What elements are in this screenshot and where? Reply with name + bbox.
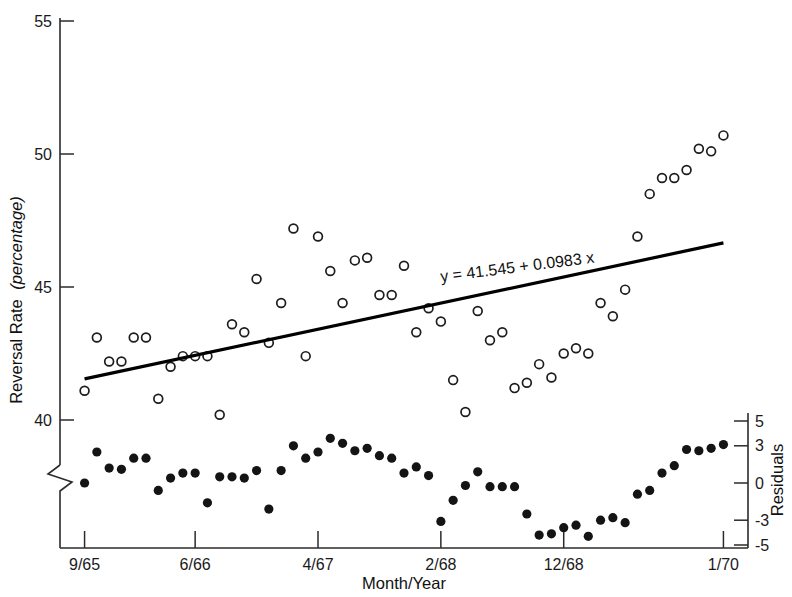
data-point-reversal-rate bbox=[510, 384, 519, 393]
data-point-reversal-rate bbox=[289, 224, 298, 233]
figure-container: 55504540 9/656/664/672/6812/681/70 530-3… bbox=[0, 0, 792, 597]
data-point-residual bbox=[80, 478, 89, 487]
data-point-reversal-rate bbox=[350, 256, 359, 265]
data-point-reversal-rate bbox=[535, 360, 544, 369]
data-point-residual bbox=[719, 440, 728, 449]
data-point-residual bbox=[350, 446, 359, 455]
data-point-reversal-rate bbox=[547, 373, 556, 382]
data-point-residual bbox=[461, 481, 470, 490]
data-point-reversal-rate bbox=[436, 317, 445, 326]
x-axis-tick-labels: 9/656/664/672/6812/681/70 bbox=[69, 556, 739, 573]
data-point-reversal-rate bbox=[449, 376, 458, 385]
x-tick-label: 9/65 bbox=[69, 556, 100, 573]
data-point-reversal-rate bbox=[707, 147, 716, 156]
series-residual-markers bbox=[80, 434, 728, 541]
data-point-reversal-rate bbox=[277, 299, 286, 308]
data-point-residual bbox=[326, 434, 335, 443]
data-point-residual bbox=[645, 486, 654, 495]
data-point-residual bbox=[375, 451, 384, 460]
data-point-residual bbox=[178, 468, 187, 477]
data-point-residual bbox=[227, 472, 236, 481]
bottom-axis-group: 9/656/664/672/6812/681/70 bbox=[60, 531, 748, 573]
data-point-residual bbox=[510, 482, 519, 491]
data-point-reversal-rate bbox=[584, 349, 593, 358]
right-axis-ticks bbox=[734, 421, 748, 545]
right-axis-title: Residuals bbox=[768, 444, 786, 516]
data-point-residual bbox=[498, 482, 507, 491]
left-tick-label: 55 bbox=[34, 13, 52, 30]
data-point-reversal-rate bbox=[719, 131, 728, 140]
data-point-residual bbox=[473, 467, 482, 476]
y-axis-title-italic: (percentage) bbox=[7, 196, 25, 290]
data-point-residual bbox=[313, 447, 322, 456]
data-point-residual bbox=[436, 517, 445, 526]
data-point-residual bbox=[621, 518, 630, 527]
right-axis-group: 530-3-5 bbox=[734, 413, 769, 554]
data-point-reversal-rate bbox=[461, 408, 470, 417]
data-point-reversal-rate bbox=[228, 320, 237, 329]
data-point-reversal-rate bbox=[400, 261, 409, 270]
right-tick-label: 0 bbox=[755, 475, 764, 492]
data-point-reversal-rate bbox=[670, 174, 679, 183]
data-point-residual bbox=[682, 445, 691, 454]
data-point-reversal-rate bbox=[596, 299, 605, 308]
data-point-reversal-rate bbox=[375, 291, 384, 300]
x-tick-label: 4/67 bbox=[302, 556, 333, 573]
data-point-reversal-rate bbox=[117, 357, 126, 366]
left-axis-ticks bbox=[60, 21, 74, 420]
x-axis-ticks bbox=[85, 531, 724, 548]
data-point-reversal-rate bbox=[572, 344, 581, 353]
data-point-residual bbox=[412, 462, 421, 471]
data-point-reversal-rate bbox=[486, 336, 495, 345]
left-tick-label: 50 bbox=[34, 146, 52, 163]
data-point-residual bbox=[547, 529, 556, 538]
data-point-reversal-rate bbox=[301, 352, 310, 361]
data-point-residual bbox=[338, 439, 347, 448]
x-tick-label: 12/68 bbox=[544, 556, 584, 573]
data-point-reversal-rate bbox=[142, 333, 151, 342]
data-point-residual bbox=[399, 468, 408, 477]
left-tick-label: 45 bbox=[34, 279, 52, 296]
data-point-reversal-rate bbox=[522, 378, 531, 387]
data-point-reversal-rate bbox=[240, 328, 249, 337]
y-axis-title: Reversal Rate (percentage) bbox=[7, 196, 25, 404]
x-axis-title: Month/Year bbox=[362, 574, 446, 592]
data-point-residual bbox=[694, 446, 703, 455]
data-point-reversal-rate bbox=[129, 333, 138, 342]
data-point-reversal-rate bbox=[658, 174, 667, 183]
data-point-residual bbox=[608, 513, 617, 522]
data-point-residual bbox=[277, 466, 286, 475]
data-point-reversal-rate bbox=[559, 349, 568, 358]
data-point-reversal-rate bbox=[412, 328, 421, 337]
data-point-residual bbox=[584, 532, 593, 541]
reversal-rate-scatter-chart: 55504540 9/656/664/672/6812/681/70 530-3… bbox=[0, 0, 792, 597]
data-point-reversal-rate bbox=[633, 232, 642, 241]
data-point-reversal-rate bbox=[80, 386, 89, 395]
data-point-residual bbox=[301, 454, 310, 463]
data-point-residual bbox=[92, 447, 101, 456]
series-reversal-rate-markers bbox=[80, 131, 728, 419]
x-tick-label: 1/70 bbox=[708, 556, 739, 573]
data-point-reversal-rate bbox=[338, 299, 347, 308]
data-point-reversal-rate bbox=[326, 267, 335, 276]
data-point-residual bbox=[559, 523, 568, 532]
data-point-reversal-rate bbox=[92, 333, 101, 342]
data-point-reversal-rate bbox=[363, 253, 372, 262]
x-tick-label: 2/68 bbox=[425, 556, 456, 573]
data-point-reversal-rate bbox=[694, 144, 703, 153]
data-point-reversal-rate bbox=[608, 312, 617, 321]
data-point-residual bbox=[657, 468, 666, 477]
data-point-residual bbox=[707, 444, 716, 453]
data-point-residual bbox=[535, 530, 544, 539]
data-point-reversal-rate bbox=[387, 291, 396, 300]
data-point-reversal-rate bbox=[215, 410, 224, 419]
y-axis-title-plain: Reversal Rate bbox=[7, 299, 25, 404]
data-point-residual bbox=[191, 468, 200, 477]
left-axis-tick-labels: 55504540 bbox=[34, 13, 52, 429]
data-point-residual bbox=[215, 472, 224, 481]
data-point-residual bbox=[166, 473, 175, 482]
regression-equation: y = 41.545 + 0.0983 x bbox=[439, 249, 595, 285]
data-point-reversal-rate bbox=[621, 285, 630, 294]
right-tick-label: 5 bbox=[755, 413, 764, 430]
data-point-residual bbox=[264, 504, 273, 513]
